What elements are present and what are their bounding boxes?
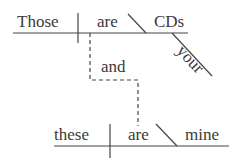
clause2-complement-slash — [156, 124, 177, 146]
clause2-verb: are — [128, 126, 149, 143]
clause2-subject: these — [54, 126, 89, 143]
clause1-subject: Those — [17, 13, 59, 30]
conjunction-connector — [90, 33, 138, 126]
clause1-verb: are — [97, 13, 118, 30]
clause2-complement: mine — [185, 126, 219, 143]
clause1-complement: CDs — [154, 13, 184, 30]
conjunction: and — [101, 58, 126, 75]
clause1-complement-slash — [128, 14, 146, 33]
